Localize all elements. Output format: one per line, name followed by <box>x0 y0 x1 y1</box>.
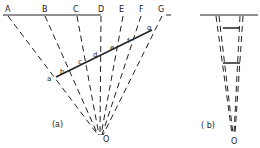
label-B: B <box>42 5 48 14</box>
caption-a: (a) <box>52 120 63 129</box>
ray-b-right-outer <box>235 16 243 134</box>
panel-a: A B C D E F G a b c d e f g (a) O <box>3 5 171 144</box>
label-C: C <box>73 5 79 14</box>
ray-b-left-inner <box>219 16 233 134</box>
caption-b: ( b) <box>201 121 215 130</box>
label-A: A <box>5 5 11 14</box>
ray-b-left-outer <box>216 16 232 134</box>
label-b: b <box>60 68 65 76</box>
label-E: E <box>119 5 124 14</box>
label-e: e <box>110 44 114 52</box>
ray-d <box>100 16 101 135</box>
ray-c <box>77 16 99 135</box>
ray-a <box>8 16 98 135</box>
segment-ag <box>56 30 152 77</box>
label-G: G <box>158 5 164 14</box>
label-a: a <box>47 75 51 83</box>
label-F: F <box>139 5 144 14</box>
diagram: A B C D E F G a b c d e f g (a) O ( b) O <box>0 0 260 148</box>
label-d: d <box>93 51 97 59</box>
panel-b: ( b) O <box>200 15 258 146</box>
label-D: D <box>98 5 104 14</box>
origin-label-a: O <box>103 135 109 144</box>
label-c: c <box>78 58 82 66</box>
origin-label-b: O <box>231 137 237 146</box>
label-g: g <box>147 24 151 32</box>
ray-b-right-inner <box>234 16 240 134</box>
ray-f <box>102 16 141 135</box>
